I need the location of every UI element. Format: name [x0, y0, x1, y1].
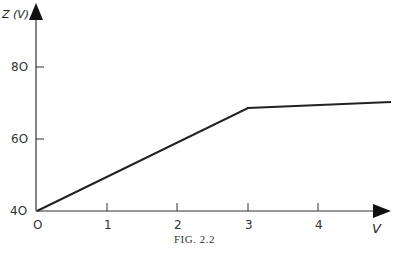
- chart: Z (V) V 8O 6O 4O O 1 2 3 4 FIG. 2.2: [0, 0, 394, 253]
- x-axis-arrow-icon: [373, 204, 391, 218]
- y-tick-label-40: 4O: [10, 204, 27, 218]
- x-tick-label-3: 3: [245, 218, 253, 232]
- y-tick-label-80: 8O: [11, 60, 28, 74]
- x-tick-label-2: 2: [174, 218, 182, 232]
- x-tick-label-4: 4: [315, 218, 323, 232]
- y-axis-title: Z (V): [1, 8, 29, 21]
- y-axis-arrow-icon: [29, 3, 43, 20]
- data-line: [37, 102, 391, 211]
- y-tick-label-60: 6O: [11, 132, 28, 146]
- x-tick-label-0: O: [33, 218, 42, 232]
- x-axis-title: V: [372, 221, 382, 236]
- x-tick-label-1: 1: [104, 218, 112, 232]
- figure-caption: FIG. 2.2: [174, 233, 215, 245]
